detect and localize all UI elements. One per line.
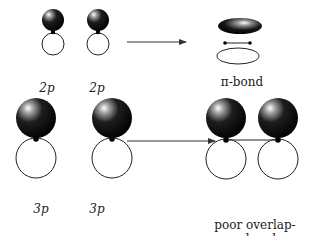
filled-lobe [87,9,109,31]
nucleus-dot-right [248,41,252,45]
label-3p-left: 3p [33,202,49,216]
label-pi-bond: π-bond [221,75,264,89]
orbital-2p-right [87,9,109,55]
nucleus-dot-left [223,137,229,143]
empty-lobe [92,138,132,178]
label-2p-right: 2p [88,81,105,95]
nucleus-dot [96,30,100,34]
empty-lobe-left [206,139,246,179]
label-3p-right: 3p [89,202,105,216]
empty-lobe [87,33,109,55]
orbital-3p-right [92,98,132,178]
nucleus-dot [51,30,55,34]
pi-bond-3p [206,98,298,179]
empty-pi-lobe [217,48,259,64]
orbital-2p-left [42,9,64,55]
filled-lobe-left [206,98,246,138]
empty-lobe-right [258,139,298,179]
orbital-3p-left [16,98,56,178]
filled-lobe-right [258,98,298,138]
filled-lobe [92,98,132,138]
nucleus-dot-right [275,137,281,143]
label-2p-left: 2p [38,81,55,95]
empty-lobe [16,138,56,178]
nucleus-dot-left [223,41,227,45]
orbital-overlap-diagram: 2p 2p π-bond 3p 3p poor overlap- π-bond [0,0,312,236]
label-poor-overlap-line2: π-bond [234,232,277,236]
filled-pi-lobe [218,18,262,34]
nucleus-dot [33,136,39,142]
label-poor-overlap-line1: poor overlap- [214,218,295,232]
pi-bond-2p [217,18,262,64]
filled-lobe [16,98,56,138]
nucleus-dot [109,136,115,142]
empty-lobe [42,33,64,55]
filled-lobe [42,9,64,31]
